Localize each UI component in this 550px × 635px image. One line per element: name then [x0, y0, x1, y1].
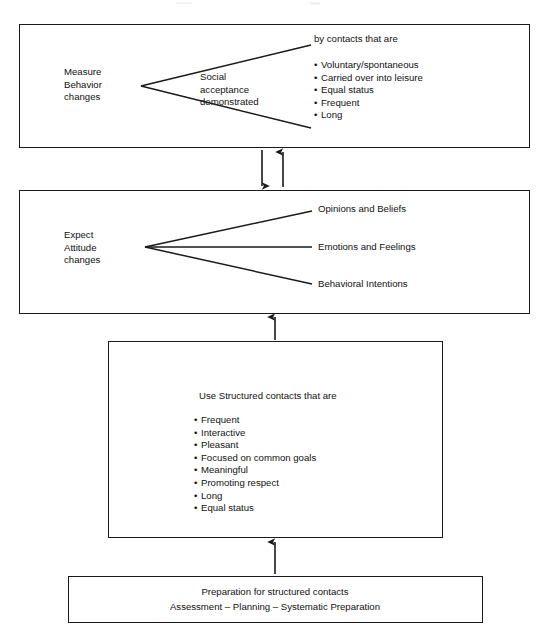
list-item: Promoting respect [194, 477, 316, 490]
box-preparation-for-structured-contacts [68, 576, 483, 623]
list-item: Pleasant [194, 439, 316, 452]
expect-attitude-left-label: Expect Attitude changes [64, 229, 100, 267]
structured-contacts-heading: Use Structured contacts that are [199, 390, 337, 403]
scan-artifact [310, 2, 320, 5]
list-item: Equal status [314, 84, 423, 97]
scan-artifact [176, 2, 192, 4]
list-item: Voluntary/spontaneous [314, 59, 423, 72]
list-item: Interactive [194, 427, 316, 440]
diagram-canvas: Measure Behavior changes Social acceptan… [0, 0, 550, 635]
preparation-line-2: Assessment – Planning – Systematic Prepa… [0, 601, 550, 614]
branch-label-emotions-and-feelings: Emotions and Feelings [318, 241, 416, 254]
branch-label-opinions-and-beliefs: Opinions and Beliefs [318, 203, 406, 216]
by-contacts-heading: by contacts that are [314, 33, 398, 46]
structured-contacts-bullet-list: Frequent Interactive Pleasant Focused on… [194, 414, 316, 515]
list-item: Frequent [194, 414, 316, 427]
by-contacts-bullet-list: Voluntary/spontaneous Carried over into … [314, 59, 423, 122]
preparation-line-1: Preparation for structured contacts [0, 586, 550, 599]
social-acceptance-wedge-label: Social acceptance demonstrated [200, 71, 259, 109]
measure-behavior-left-label: Measure Behavior changes [64, 66, 102, 104]
list-item: Carried over into leisure [314, 72, 423, 85]
branch-label-behavioral-intentions: Behavioral Intentions [318, 278, 408, 291]
list-item: Focused on common goals [194, 452, 316, 465]
list-item: Meaningful [194, 464, 316, 477]
list-item: Frequent [314, 97, 423, 110]
list-item: Equal status [194, 502, 316, 515]
list-item: Long [194, 490, 316, 503]
list-item: Long [314, 109, 423, 122]
